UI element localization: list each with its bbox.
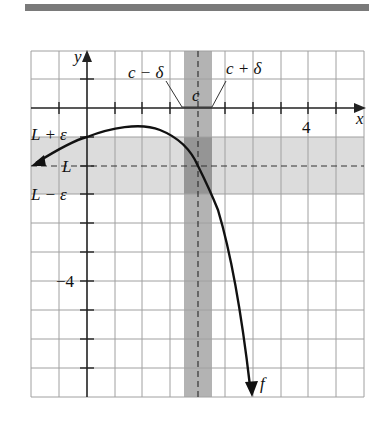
curve-down-arrow-icon bbox=[245, 381, 258, 397]
y-axis-label: y bbox=[72, 47, 82, 66]
L-minus-epsilon-label: L − ε bbox=[30, 185, 67, 204]
L-label: L bbox=[61, 157, 71, 176]
x-axis-label: x bbox=[355, 109, 364, 128]
c-label: c bbox=[192, 86, 200, 105]
c-plus-delta-label: c + δ bbox=[226, 59, 263, 78]
y-axis bbox=[80, 50, 94, 397]
x-tick-label-4: 4 bbox=[302, 118, 311, 137]
c-plus-delta-leader bbox=[212, 81, 226, 107]
y-tick-label-minus-4: −4 bbox=[56, 272, 75, 291]
c-minus-delta-label: c − δ bbox=[128, 63, 165, 82]
y-axis-arrow-icon bbox=[82, 50, 92, 62]
f-label: f bbox=[260, 374, 267, 393]
c-minus-delta-leader bbox=[166, 81, 182, 107]
epsilon-delta-diagram: y x 4 −4 c − δ c + δ c L + ε L L − ε f bbox=[0, 0, 377, 430]
L-plus-epsilon-label: L + ε bbox=[30, 125, 67, 144]
